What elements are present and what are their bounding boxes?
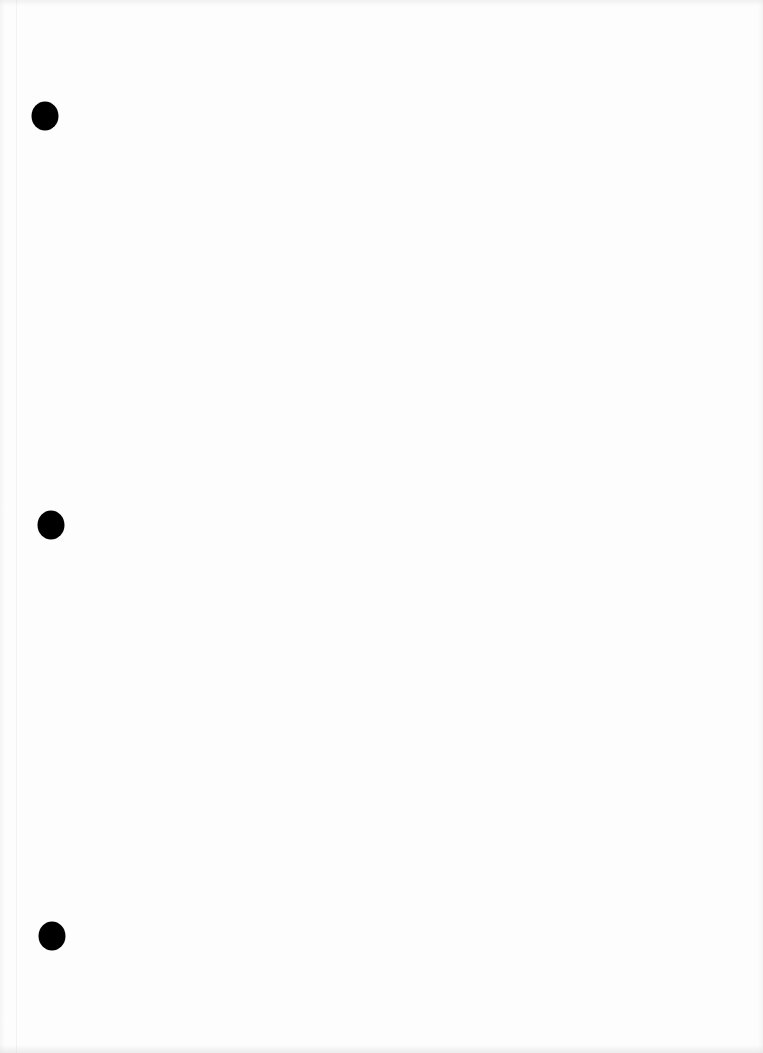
blank-paper-sheet [0, 0, 763, 1053]
punch-hole-top [32, 102, 59, 131]
punch-hole-bottom [39, 922, 66, 951]
left-margin-shadow [16, 0, 17, 1053]
punch-hole-middle [38, 511, 65, 540]
